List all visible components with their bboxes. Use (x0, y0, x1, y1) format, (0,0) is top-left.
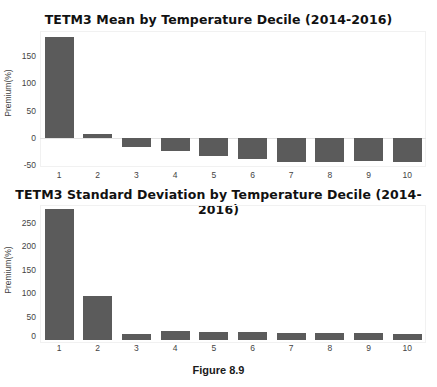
figure-caption: Figure 8.9 (0, 364, 437, 376)
xtick-label: 8 (320, 343, 340, 353)
bar-decile-3 (122, 138, 151, 147)
bar-decile-8 (315, 138, 344, 162)
xtick-label: 5 (204, 170, 224, 180)
xtick-label: 3 (126, 343, 146, 353)
xtick-label: 6 (243, 170, 263, 180)
mean-ylabel: Premium(%) (3, 63, 13, 123)
mean-chart-title: TETM3 Mean by Temperature Decile (2014-2… (0, 12, 437, 27)
xtick-label: 1 (49, 343, 69, 353)
bar-decile-6 (238, 332, 267, 340)
xtick-label: 2 (88, 170, 108, 180)
xtick-label: 4 (165, 343, 185, 353)
bar-decile-9 (354, 333, 383, 340)
xtick-label: 10 (397, 170, 417, 180)
bar-decile-1 (45, 209, 74, 340)
bar-decile-1 (45, 37, 74, 138)
xtick-label: 3 (126, 170, 146, 180)
mean-ytick: 0 (6, 133, 36, 143)
bar-decile-4 (161, 331, 190, 340)
std-ytick: 250 (6, 218, 36, 228)
xtick-label: 1 (49, 170, 69, 180)
xtick-label: 8 (320, 170, 340, 180)
xtick-label: 5 (204, 343, 224, 353)
bar-decile-5 (199, 138, 228, 156)
bar-decile-7 (277, 333, 306, 340)
xtick-label: 7 (281, 343, 301, 353)
bar-decile-10 (393, 138, 422, 162)
xtick-label: 6 (243, 343, 263, 353)
bar-decile-7 (277, 138, 306, 162)
xtick-label: 4 (165, 170, 185, 180)
bar-decile-2 (83, 296, 112, 340)
bar-decile-5 (199, 332, 228, 340)
xtick-label: 7 (281, 170, 301, 180)
bar-decile-4 (161, 138, 190, 151)
std-ytick: 50 (6, 312, 36, 322)
bar-decile-9 (354, 138, 383, 161)
xtick-label: 9 (359, 343, 379, 353)
xtick-label: 2 (88, 343, 108, 353)
bar-decile-10 (393, 334, 422, 340)
xtick-label: 10 (397, 343, 417, 353)
bar-decile-8 (315, 333, 344, 340)
mean-ytick: 150 (6, 51, 36, 61)
bar-decile-6 (238, 138, 267, 159)
bar-decile-2 (83, 134, 112, 138)
bar-decile-3 (122, 334, 151, 340)
std-ylabel: Premium(%) (3, 240, 13, 300)
std-ytick: 0 (6, 331, 36, 341)
mean-ytick: -50 (6, 160, 36, 170)
xtick-label: 9 (359, 170, 379, 180)
